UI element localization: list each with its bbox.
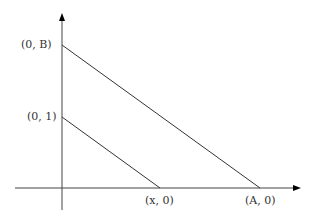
label-0-B: (0, B) [21,39,52,51]
x-axis-arrow-icon [293,185,301,191]
label-A-0: (A, 0) [245,195,276,207]
label-0-1: (0, 1) [27,111,57,123]
label-x-0: (x, 0) [145,195,174,207]
line-B-to-A [62,45,260,188]
diagram-canvas [0,0,314,217]
line-1-to-x [62,117,160,188]
y-axis-arrow-icon [59,13,65,21]
